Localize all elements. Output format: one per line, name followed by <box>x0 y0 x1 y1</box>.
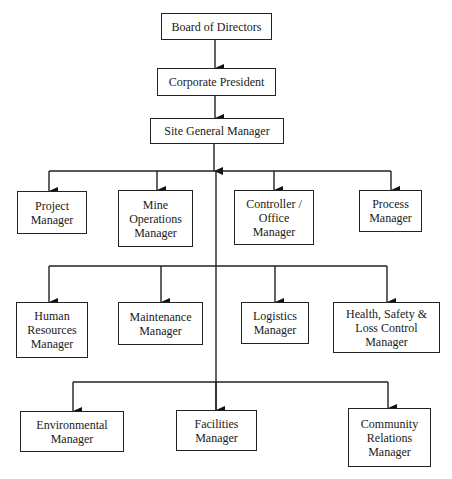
node-label-line: Manager <box>31 337 74 351</box>
node-label-line: Loss Control <box>355 321 417 335</box>
node-label-line: Human <box>34 309 69 323</box>
node-label-line: Manager <box>51 432 94 446</box>
node-label-line: Manager <box>134 226 177 240</box>
node-health-safety-loss-control-manager: Health, Safety & Loss Control Manager <box>333 302 440 353</box>
node-label-line: Environmental <box>36 418 107 432</box>
node-label: Corporate President <box>169 75 265 89</box>
node-process-manager: Process Manager <box>359 190 422 232</box>
node-label-line: Logistics <box>253 309 297 323</box>
node-label-line: Manager <box>31 213 74 227</box>
node-label-line: Health, Safety & <box>346 307 427 321</box>
node-label-line: Manager <box>254 323 297 337</box>
node-label-line: Project <box>35 199 69 213</box>
node-label-line: Relations <box>367 431 412 445</box>
node-board-of-directors: Board of Directors <box>161 13 272 40</box>
node-project-manager: Project Manager <box>17 191 87 234</box>
node-label-line: Maintenance <box>130 310 192 324</box>
node-label-line: Controller / <box>246 197 302 211</box>
node-label-line: Facilities <box>195 417 239 431</box>
node-human-resources-manager: Human Resources Manager <box>16 302 88 358</box>
node-label-line: Office <box>259 211 289 225</box>
node-label-line: Operations <box>129 212 182 226</box>
node-label-line: Community <box>361 417 418 431</box>
node-label-line: Manager <box>365 335 408 349</box>
node-site-general-manager: Site General Manager <box>150 118 284 144</box>
node-label-line: Process <box>372 197 409 211</box>
node-maintenance-manager: Maintenance Manager <box>118 302 203 345</box>
node-label-line: Resources <box>27 323 76 337</box>
node-label-line: Manager <box>253 225 296 239</box>
node-label-line: Manager <box>139 324 182 338</box>
node-facilities-manager: Facilities Manager <box>176 410 257 451</box>
node-label: Board of Directors <box>172 20 262 34</box>
node-label-line: Manager <box>368 445 411 459</box>
node-label-line: Manager <box>195 431 238 445</box>
node-corporate-president: Corporate President <box>157 68 276 96</box>
node-label: Site General Manager <box>164 124 269 138</box>
node-mine-operations-manager: Mine Operations Manager <box>118 190 193 247</box>
node-community-relations-manager: Community Relations Manager <box>348 408 431 467</box>
node-logistics-manager: Logistics Manager <box>241 302 309 344</box>
node-controller-office-manager: Controller / Office Manager <box>234 190 314 245</box>
org-chart: Board of Directors Corporate President S… <box>0 0 452 479</box>
node-environmental-manager: Environmental Manager <box>20 411 124 452</box>
node-label-line: Manager <box>369 211 412 225</box>
node-label-line: Mine <box>143 198 168 212</box>
